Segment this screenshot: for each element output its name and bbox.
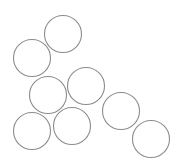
circle-4	[68, 68, 105, 105]
circle-group	[14, 16, 170, 158]
circle-7	[103, 93, 140, 130]
circle-6	[54, 108, 91, 145]
circles-diagram	[0, 0, 183, 168]
circle-8	[133, 121, 170, 158]
circle-2	[14, 40, 51, 77]
circle-5	[14, 113, 51, 150]
circle-3	[30, 77, 67, 114]
circle-1	[45, 16, 82, 53]
